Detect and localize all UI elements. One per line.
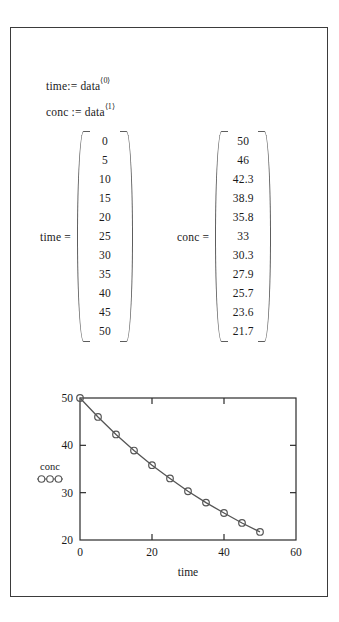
matrix-conc-body: 504642.338.935.83330.327.925.723.621.7 (214, 130, 272, 343)
matrix-time-label: time = (40, 231, 76, 243)
definition-conc-operator: := (72, 106, 82, 118)
matrix-time-column: 05101520253035404550 (85, 130, 125, 343)
right-parenthesis-icon (263, 130, 272, 343)
definition-time-lhs: time (46, 80, 67, 92)
matrix-conc-cell: 46 (223, 151, 263, 170)
matrix-time-cell: 50 (85, 322, 125, 341)
matrix-conc-cell: 35.8 (223, 208, 263, 227)
matrix-time-cell: 0 (85, 132, 125, 151)
right-parenthesis-icon (125, 130, 134, 343)
matrix-time-cell: 5 (85, 151, 125, 170)
left-parenthesis-icon (214, 130, 223, 343)
definition-conc-lhs: conc (46, 106, 69, 118)
definition-conc[interactable]: conc := data⟨1⟩ (46, 104, 115, 118)
definition-time-superscript: ⟨0⟩ (100, 76, 110, 85)
matrix-time-cell: 30 (85, 246, 125, 265)
matrix-conc-cell: 38.9 (223, 189, 263, 208)
definition-time[interactable]: time:= data⟨0⟩ (46, 78, 110, 92)
matrix-conc[interactable]: conc = 504642.338.935.83330.327.925.723.… (177, 130, 272, 343)
matrix-conc-column: 504642.338.935.83330.327.925.723.621.7 (223, 130, 263, 343)
definition-conc-superscript: ⟨1⟩ (105, 102, 115, 111)
matrix-time-cell: 35 (85, 265, 125, 284)
matrix-time-cell: 15 (85, 189, 125, 208)
matrix-conc-cell: 21.7 (223, 322, 263, 341)
matrix-conc-cell: 50 (223, 132, 263, 151)
definition-time-operator: := (67, 80, 77, 92)
matrix-conc-cell: 30.3 (223, 246, 263, 265)
matrix-time-cell: 10 (85, 170, 125, 189)
matrix-time-cell: 45 (85, 303, 125, 322)
matrix-conc-cell: 23.6 (223, 303, 263, 322)
matrix-time[interactable]: time = 05101520253035404550 (40, 130, 134, 343)
matrix-time-body: 05101520253035404550 (76, 130, 134, 343)
matrix-conc-cell: 25.7 (223, 284, 263, 303)
matrix-conc-label: conc = (177, 231, 214, 243)
definition-conc-rhs: data (85, 106, 105, 118)
matrix-time-cell: 25 (85, 227, 125, 246)
matrix-conc-cell: 42.3 (223, 170, 263, 189)
definition-time-rhs: data (80, 80, 100, 92)
matrix-time-cell: 40 (85, 284, 125, 303)
left-parenthesis-icon (76, 130, 85, 343)
matrix-conc-cell: 27.9 (223, 265, 263, 284)
matrix-time-cell: 20 (85, 208, 125, 227)
matrix-conc-cell: 33 (223, 227, 263, 246)
